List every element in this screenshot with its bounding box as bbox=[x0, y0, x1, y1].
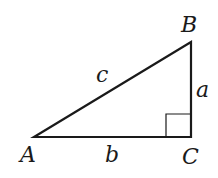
side-label-b: b bbox=[105, 142, 119, 167]
right-angle-marker bbox=[166, 114, 191, 137]
vertex-label-a: A bbox=[18, 142, 36, 167]
side-label-a: a bbox=[196, 77, 209, 102]
triangle-diagram: A B C c a b bbox=[0, 0, 218, 178]
triangle-svg: A B C c a b bbox=[0, 0, 218, 178]
vertex-label-c: C bbox=[182, 144, 199, 169]
triangle-shape bbox=[34, 42, 191, 137]
side-label-c: c bbox=[96, 62, 108, 87]
vertex-label-b: B bbox=[180, 12, 197, 37]
